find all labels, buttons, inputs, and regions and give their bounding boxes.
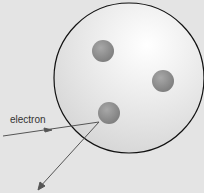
atom-diagram <box>0 0 204 193</box>
atom-sphere <box>54 3 204 153</box>
particle-1 <box>92 40 114 62</box>
scattered-electron-arrow <box>38 122 99 190</box>
particle-3 <box>98 102 120 124</box>
particle-2 <box>152 70 174 92</box>
electron-label: electron <box>10 114 46 125</box>
